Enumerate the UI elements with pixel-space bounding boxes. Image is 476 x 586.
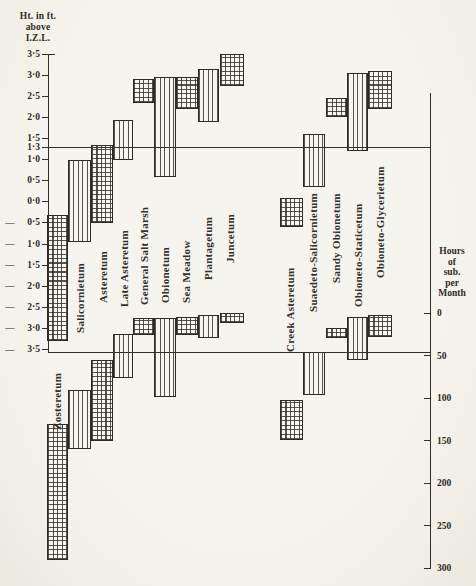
hours-range-bar-general-salt-marsh [133,318,154,335]
community-label-salicornietum: Salicornietum [74,263,86,333]
hours-axis-title-line2: of [432,257,472,268]
minus-sign-dash: — [5,218,19,229]
hours-axis-title-line4: per [432,278,472,289]
hours-range-bar-salicornietum [68,390,91,450]
hours-axis-tick-label: 250 [437,521,451,532]
minus-sign-dash: — [5,239,19,250]
hours-axis-tick-label: 100 [437,393,451,404]
hours-range-bar-asteretum [91,360,113,441]
hours-axis-tick [424,398,430,399]
hours-range-bar-juncetum [220,313,244,323]
scanned-zonation-chart: Ht. in ft. above I.Z.L. Hours of sub. pe… [0,0,476,586]
height-axis-tick [42,54,48,55]
height-axis-tick [42,117,48,118]
height-range-bar-sandy-obionetum [326,98,347,117]
height-range-bar-obionetum [154,77,176,176]
height-axis-tick [42,244,48,245]
hours-axis-tick [424,483,430,484]
height-range-bar-late-asteretum [113,120,133,160]
community-label-asteretum: Asteretum [97,251,109,303]
height-range-bar-obioneto-glycerietum [368,71,392,109]
community-label-zosteretum: Zosteretum [51,373,63,430]
community-label-late-asteretum: Late Asteretum [118,230,130,307]
height-axis-tick [42,286,48,287]
minus-sign-dash: — [5,323,19,334]
height-axis-tick [42,159,48,160]
height-axis-tick [42,265,48,266]
hours-axis-tick-label: 200 [437,478,451,489]
hours-axis-tick-label: 300 [437,563,451,574]
hours-range-bar-sea-meadow [176,317,198,335]
height-range-bar-salicornietum [68,160,91,242]
height-axis-tick-label: 1·3 [4,142,40,153]
height-range-bar-suaedeto-salicornietum [303,134,325,187]
height-axis-tick [42,147,48,148]
height-axis-tick [42,349,48,350]
hours-axis-tick [424,313,430,314]
height-axis-title-line3: I.Z.L. [8,33,68,44]
height-range-bar-sea-meadow [176,77,198,109]
community-label-creek-asteretum: Creek Asteretum [284,268,296,352]
community-label-general-salt-marsh: General Salt Marsh [138,207,150,305]
height-axis-tick-label: 3·0 [4,70,40,81]
hours-range-bar-plantagetum [198,315,219,338]
hours-axis-tick-label: 50 [437,351,447,362]
minus-sign-dash: — [5,281,19,292]
height-axis-tick [42,138,48,139]
hours-axis-line [430,93,431,569]
minus-sign-dash: — [5,260,19,271]
height-range-bar-juncetum [220,54,244,86]
community-label-obioneto-glycerietum: Obioneto-Glycerietum [374,166,386,278]
reference-line-baseline [48,352,431,353]
hours-range-bar-zosteretum [47,424,68,560]
height-axis-title-line1: Ht. in ft. [8,11,68,22]
hours-range-bar-sandy-obionetum [326,328,347,338]
hours-range-bar-obioneto-glycerietum [368,315,392,337]
height-range-bar-obioneto-staticetum [347,73,368,151]
hours-axis-tick [424,355,430,356]
hours-axis-title-line1: Hours [432,246,472,257]
height-axis-tick-label: 3·5 [4,49,40,60]
community-label-obionetum: Obionetum [159,247,171,303]
height-axis-line [48,54,49,352]
height-range-bar-creek-asteretum [280,198,303,228]
hours-axis-tick [424,440,430,441]
height-axis-tick-label: 1·0 [4,154,40,165]
hours-range-bar-creek-asteretum [280,400,303,441]
community-label-sandy-obionetum: Sandy Obionetum [330,193,342,283]
reference-line-1-3ft [48,147,431,148]
hours-axis-tick-label: 0 [437,308,442,319]
height-axis-tick [42,180,48,181]
community-label-juncetum: Juncetum [224,214,236,263]
height-axis-tick-label: 0·5 [4,175,40,186]
height-axis-tick [42,96,48,97]
hours-axis-tick [424,525,430,526]
height-axis-tick-label: 0·0 [4,196,40,207]
height-axis-title-line2: above [8,22,68,33]
minus-sign-dash: — [5,345,19,356]
height-range-bar-zosteretum [47,215,68,342]
height-range-bar-general-salt-marsh [133,79,154,102]
hours-range-bar-suaedeto-salicornietum [303,352,325,395]
height-axis-tick-label: 2·0 [4,112,40,123]
hours-axis-title-line3: sub. [432,267,472,278]
hours-range-bar-obioneto-staticetum [347,317,368,360]
height-axis-tick-label: 2·5 [4,91,40,102]
height-axis-title: Ht. in ft. above I.Z.L. [8,11,68,44]
height-axis-top-arm [48,54,55,55]
community-label-plantagetum: Plantagetum [202,217,214,280]
height-axis-tick [42,222,48,223]
hours-axis-tick-label: 150 [437,436,451,447]
height-axis-tick [42,201,48,202]
height-axis-tick [42,75,48,76]
hours-range-bar-obionetum [154,318,176,397]
hours-axis-tick [424,568,430,569]
height-axis-tick [42,307,48,308]
community-label-sea-meadow: Sea Meadow [180,240,192,303]
hours-range-bar-late-asteretum [113,334,133,378]
minus-sign-dash: — [5,302,19,313]
hours-axis-title: Hours of sub. per Month [432,246,472,299]
community-label-obioneto-staticetum: Obioneto-Staticetum [352,204,364,307]
hours-axis-title-line5: Month [432,288,472,299]
height-axis-tick [42,328,48,329]
